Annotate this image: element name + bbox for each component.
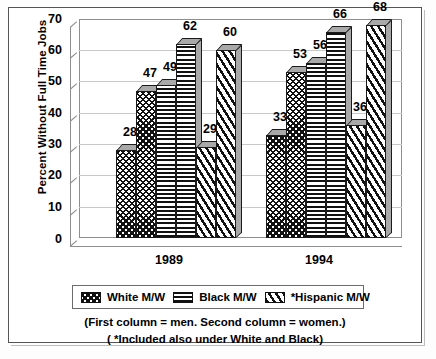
bar-1989-hispanic-women[interactable]: 60 bbox=[216, 50, 236, 238]
y-tick-0: 0 bbox=[55, 233, 62, 246]
legend-label: Black M/W bbox=[199, 291, 257, 303]
bar-front-face bbox=[286, 72, 306, 238]
bar-front-face bbox=[156, 85, 176, 238]
bar-value-label: 62 bbox=[173, 20, 207, 33]
bar-front-face bbox=[346, 125, 366, 238]
bar-1994-black-women[interactable]: 66 bbox=[326, 32, 346, 238]
bar-value-label: 66 bbox=[323, 8, 357, 21]
y-tick-70: 70 bbox=[48, 13, 62, 26]
bar-1989-white-men[interactable]: 28 bbox=[116, 150, 136, 238]
bar-side-face bbox=[236, 45, 242, 238]
bar-front-face bbox=[176, 44, 196, 238]
legend-item-black[interactable]: Black M/W bbox=[165, 291, 257, 303]
footnote-columns: (First column = men. Second column = wom… bbox=[8, 316, 422, 328]
legend-label: *Hispanic M/W bbox=[291, 291, 370, 303]
y-tick-30: 30 bbox=[48, 138, 62, 151]
legend-swatch-diagonal-lines-icon bbox=[265, 292, 285, 303]
bar-1994-white-women[interactable]: 53 bbox=[286, 72, 306, 238]
bar-value-label: 68 bbox=[363, 1, 397, 14]
bar-series-container: 28 47 49 62 bbox=[79, 19, 402, 238]
bar-front-face bbox=[366, 25, 386, 238]
bar-1994-black-men[interactable]: 56 bbox=[306, 63, 326, 238]
bar-1989-black-men[interactable]: 49 bbox=[156, 85, 176, 238]
legend-swatch-crosshatch-icon bbox=[81, 292, 101, 303]
bar-front-face bbox=[306, 63, 326, 238]
bar-front-face bbox=[216, 50, 236, 238]
y-tick-50: 50 bbox=[48, 75, 62, 88]
x-axis-group-label-1989: 1989 bbox=[124, 253, 214, 267]
y-tick-20: 20 bbox=[48, 169, 62, 182]
bar-side-face bbox=[386, 20, 392, 238]
bar-front-face bbox=[116, 150, 136, 238]
legend-item-hispanic[interactable]: *Hispanic M/W bbox=[257, 291, 370, 303]
bar-front-face bbox=[136, 91, 156, 238]
bar-1989-white-women[interactable]: 47 bbox=[136, 91, 156, 238]
bar-front-face bbox=[326, 32, 346, 238]
bar-front-face bbox=[196, 147, 216, 238]
plot-area: Percent Without Full Time Jobs 70 60 50 … bbox=[14, 13, 414, 258]
y-tick-10: 10 bbox=[48, 201, 62, 214]
legend-item-white[interactable]: White M/W bbox=[73, 291, 165, 303]
axis-tick-70 bbox=[70, 21, 77, 28]
bar-1994-hispanic-men[interactable]: 36 bbox=[346, 125, 366, 238]
x-axis-group-label-1994: 1994 bbox=[274, 253, 364, 267]
bar-front-face bbox=[266, 135, 286, 238]
legend-swatch-horizontal-lines-icon bbox=[173, 292, 193, 303]
y-axis-tick-labels: 70 60 50 40 30 20 10 0 bbox=[32, 13, 62, 248]
bar-1989-black-women[interactable]: 62 bbox=[176, 44, 196, 238]
y-tick-60: 60 bbox=[48, 44, 62, 57]
bar-value-label: 60 bbox=[213, 26, 247, 39]
bar-1994-white-men[interactable]: 33 bbox=[266, 135, 286, 238]
legend: White M/W Black M/W *Hispanic M/W bbox=[72, 285, 364, 309]
bar-1994-hispanic-women[interactable]: 68 bbox=[366, 25, 386, 238]
footnote-hispanic: ( *Included also under White and Black) bbox=[8, 333, 422, 345]
plot-box: 28 47 49 62 bbox=[70, 19, 402, 246]
y-tick-40: 40 bbox=[48, 107, 62, 120]
chart-figure: Percent Without Full Time Jobs 70 60 50 … bbox=[0, 0, 436, 359]
x-axis-line bbox=[70, 246, 402, 247]
bar-1989-hispanic-men[interactable]: 29 bbox=[196, 147, 216, 238]
legend-label: White M/W bbox=[107, 291, 165, 303]
